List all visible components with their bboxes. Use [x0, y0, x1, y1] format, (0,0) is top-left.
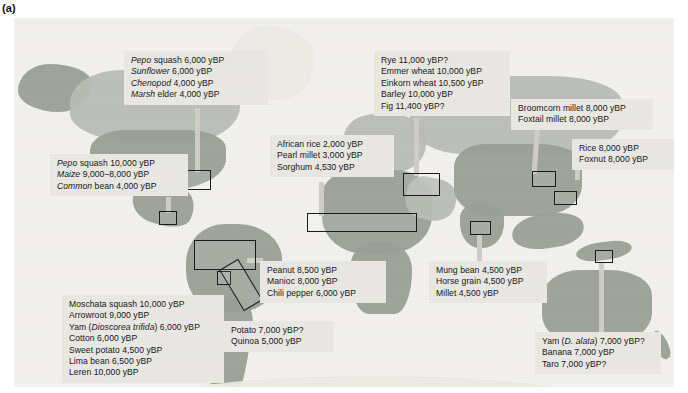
- callout-line: Arrowroot 9,000 yBP: [69, 310, 217, 321]
- callout-south-asia: Mung bean 4,500 yBPHorse grain 4,500 yBP…: [429, 261, 547, 303]
- callout-line: Marsh elder 4,000 yBP: [131, 89, 261, 100]
- callout-line: Horse grain 4,500 yBP: [436, 276, 540, 287]
- box-mesoamerica: [159, 211, 177, 225]
- callout-lowland-south-america: Peanut 8,500 yBPManioc 8,000 yBPChili pe…: [260, 261, 386, 303]
- callout-new-guinea: Yam (D. alata) 7,000 yBP?Banana 7,000 yB…: [535, 332, 661, 374]
- leader-fertile-crescent: [414, 118, 419, 176]
- box-fertile-crescent: [403, 173, 440, 196]
- callout-line: Potato 7,000 yBP?: [231, 325, 327, 336]
- figure-panel: (a): [0, 0, 688, 393]
- callout-line: Mung bean 4,500 yBP: [436, 265, 540, 276]
- callout-south-china: Rice 8,000 yBPFoxnut 8,000 yBP: [572, 139, 674, 170]
- callout-line: Sunflower 6,000 yBP: [131, 66, 261, 77]
- panel-label: (a): [2, 2, 16, 14]
- leader-eastern-north-america: [195, 108, 200, 172]
- callout-eastern-north-america: Pepo squash 6,000 yBPSunflower 6,000 yBP…: [124, 51, 268, 105]
- callout-line: Foxnut 8,000 yBP: [579, 154, 669, 165]
- box-south-asia: [470, 221, 491, 235]
- box-new-guinea: [595, 250, 613, 263]
- callout-line: Taro 7,000 yBP?: [542, 359, 654, 370]
- box-north-china: [532, 171, 556, 187]
- callout-fertile-crescent: Rye 11,000 yBP?Emmer wheat 10,000 yBPEin…: [374, 51, 510, 116]
- callout-line: Broomcorn millet 8,000 yBP: [518, 103, 646, 114]
- callout-line: Rye 11,000 yBP?: [381, 55, 503, 66]
- callout-line: Sorghum 4,530 yBP: [277, 162, 387, 173]
- callout-africa-sahel: African rice 2,000 yBPPearl millet 3,000…: [270, 135, 394, 177]
- callout-line: Pearl millet 3,000 yBP: [277, 150, 387, 161]
- leader-africa-sahel: [319, 182, 324, 216]
- callout-line: Yam (Dioscorea trifida) 6,000 yBP: [69, 322, 217, 333]
- callout-line: Yam (D. alata) 7,000 yBP?: [542, 336, 654, 347]
- box-eastern-north-america: [185, 170, 211, 190]
- callout-line: Moschata squash 10,000 yBP: [69, 299, 217, 310]
- callout-line: Chenopod 4,000 yBP: [131, 78, 261, 89]
- callout-line: Maize 9,000–8,000 yBP: [57, 169, 181, 180]
- callout-line: Barley 10,000 yBP: [381, 89, 503, 100]
- world-map: Pepo squash 6,000 yBPSunflower 6,000 yBP…: [14, 18, 674, 387]
- callout-line: Lima bean 6,500 yBP: [69, 356, 217, 367]
- callout-line: Chili pepper 6,000 yBP: [267, 288, 379, 299]
- callout-line: Pepo squash 10,000 yBP: [57, 158, 181, 169]
- leader-new-guinea: [599, 262, 604, 332]
- box-south-china: [554, 191, 577, 205]
- callout-line: Common bean 4,000 yBP: [57, 181, 181, 192]
- callout-line: Millet 4,500 yBP: [436, 288, 540, 299]
- callout-line: Peanut 8,500 yBP: [267, 265, 379, 276]
- callout-north-china: Broomcorn millet 8,000 yBPFoxtail millet…: [511, 99, 653, 130]
- leader-south-asia: [477, 234, 482, 262]
- callout-line: Emmer wheat 10,000 yBP: [381, 66, 503, 77]
- callout-northern-south-america: Moschata squash 10,000 yBPArrowroot 9,00…: [62, 295, 224, 383]
- callout-line: Foxtail millet 8,000 yBP: [518, 114, 646, 125]
- callout-mesoamerica: Pepo squash 10,000 yBPMaize 9,000–8,000 …: [50, 154, 188, 196]
- callout-line: Leren 10,000 yBP: [69, 367, 217, 378]
- callout-line: Quinoa 5,000 yBP: [231, 336, 327, 347]
- callout-line: Pepo squash 6,000 yBP: [131, 55, 261, 66]
- callout-line: Cotton 6,000 yBP: [69, 333, 217, 344]
- callout-line: Manioc 8,000 yBP: [267, 276, 379, 287]
- callout-line: Einkorn wheat 10,500 yBP: [381, 78, 503, 89]
- box-africa-sahel: [307, 213, 417, 232]
- callout-andes: Potato 7,000 yBP?Quinoa 5,000 yBP: [224, 321, 334, 352]
- callout-line: Banana 7,000 yBP: [542, 347, 654, 358]
- callout-line: Sweet potato 4,500 yBP: [69, 345, 217, 356]
- callout-line: African rice 2,000 yBP: [277, 139, 387, 150]
- callout-line: Rice 8,000 yBP: [579, 143, 669, 154]
- callout-line: Fig 11,400 yBP?: [381, 101, 503, 112]
